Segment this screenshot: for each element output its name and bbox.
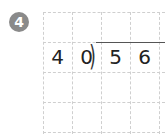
division-grid [43, 12, 165, 134]
divisor-digit-tens: 4 [43, 42, 72, 72]
grid-line [101, 12, 102, 134]
grid-line [72, 12, 73, 134]
grid-line [159, 12, 160, 134]
divisor-digit-ones: 0 [72, 42, 101, 72]
grid-line [130, 12, 131, 134]
dividend-digit-tens: 5 [101, 42, 130, 72]
grid-line [43, 132, 165, 133]
problem-number-badge: 4 [9, 12, 29, 32]
grid-line [43, 102, 165, 103]
grid-line [43, 12, 165, 13]
dividend-digit-ones: 6 [130, 42, 159, 72]
division-bracket: ) [89, 40, 96, 74]
grid-line [43, 12, 44, 134]
grid-line [43, 72, 165, 73]
